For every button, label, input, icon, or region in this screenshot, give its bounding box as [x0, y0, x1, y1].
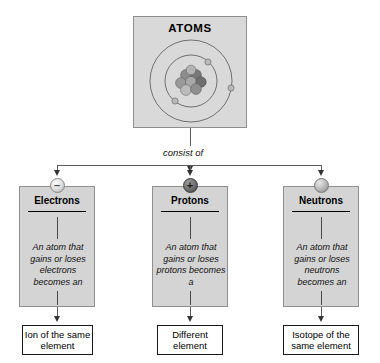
- negative-charge-sign: –: [51, 179, 64, 192]
- root-connector-upper: [190, 128, 191, 146]
- result-arrow-protons: [187, 316, 193, 322]
- branch-exit-connector-neutrons: [321, 291, 322, 305]
- neutral-particle-sign: [315, 179, 328, 192]
- result-arrow-neutrons: [318, 316, 324, 322]
- branch-title-neutrons: Neutrons: [284, 195, 358, 206]
- branch-inner-connector-neutrons: [321, 217, 322, 239]
- branch-exit-connector-electrons: [57, 291, 58, 305]
- branch-description-neutrons: An atom that gains or loses neutrons bec…: [287, 242, 357, 288]
- branch-title-electrons: Electrons: [20, 195, 94, 206]
- positive-charge-icon: +: [183, 178, 198, 193]
- bohr-atom-model-icon: [140, 37, 242, 125]
- neutral-particle-icon: [314, 178, 329, 193]
- result-box-neutrons: Isotope of the same element: [283, 325, 359, 355]
- branch-title-protons: Protons: [153, 195, 227, 206]
- branch-description-electrons: An atom that gains or loses electrons be…: [23, 242, 93, 288]
- branch-panel-neutrons: Neutrons An atom that gains or loses neu…: [283, 186, 359, 307]
- branch-title-rule-electrons: [28, 211, 86, 212]
- atom-structure-diagram: ATOMS consist of: [0, 0, 380, 363]
- result-arrow-electrons: [54, 316, 60, 322]
- branch-panel-protons: Protons An atom that gains or loses prot…: [152, 186, 228, 307]
- positive-charge-sign: +: [184, 179, 197, 192]
- result-box-protons: Different element: [157, 325, 223, 355]
- branch-title-rule-protons: [161, 211, 219, 212]
- branch-exit-connector-protons: [190, 291, 191, 305]
- branch-inner-connector-electrons: [57, 217, 58, 239]
- branch-arrow-neutrons: [318, 170, 324, 176]
- branch-title-rule-neutrons: [292, 211, 350, 212]
- branch-inner-connector-protons: [190, 217, 191, 239]
- negative-charge-icon: –: [50, 178, 65, 193]
- branch-arrow-protons: [187, 170, 193, 176]
- branch-arrow-electrons: [54, 170, 60, 176]
- atoms-title: ATOMS: [134, 22, 246, 34]
- relation-label: consist of: [163, 147, 203, 158]
- result-box-electrons: Ion of the same element: [22, 325, 93, 355]
- branch-panel-electrons: Electrons An atom that gains or loses el…: [19, 186, 95, 307]
- atoms-root-panel: ATOMS: [133, 16, 247, 128]
- branch-description-protons: An atom that gains or loses protons beco…: [156, 242, 226, 288]
